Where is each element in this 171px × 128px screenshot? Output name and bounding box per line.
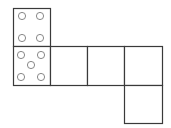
face-front xyxy=(51,47,88,86)
pip-circle-icon xyxy=(17,51,24,58)
pip-circle-icon xyxy=(36,12,43,19)
face-bottom-outline xyxy=(125,86,163,124)
cube-net-diagram xyxy=(0,0,171,128)
pip-circle-icon xyxy=(36,34,43,41)
pip-circle-icon xyxy=(37,73,44,80)
face-bottom xyxy=(125,86,163,124)
face-back xyxy=(125,47,163,86)
pip-circle-icon xyxy=(37,51,44,58)
face-right xyxy=(88,47,125,86)
pip-circle-icon xyxy=(27,61,34,68)
pip-circle-icon xyxy=(18,12,25,19)
face-front-outline xyxy=(51,47,88,86)
pip-circle-icon xyxy=(18,34,25,41)
face-right-outline xyxy=(88,47,125,86)
face-back-outline xyxy=(125,47,163,86)
pip-circle-icon xyxy=(17,73,24,80)
